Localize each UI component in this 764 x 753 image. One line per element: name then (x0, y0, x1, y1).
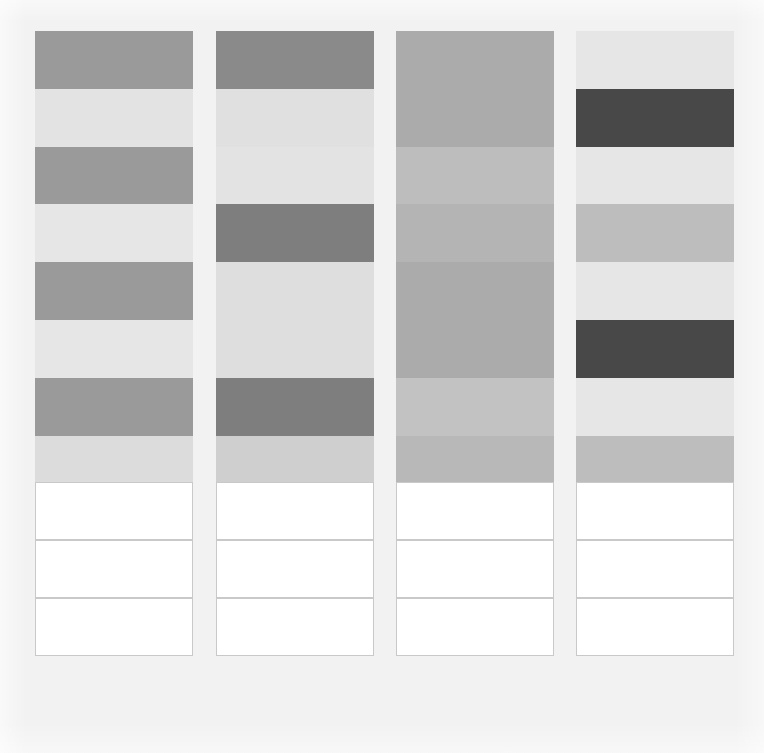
grid-cell-filled[interactable] (576, 262, 734, 320)
grid-cell-filled[interactable] (576, 378, 734, 436)
grid-cell-filled[interactable] (396, 204, 554, 262)
grid-cell-empty[interactable] (216, 482, 374, 540)
grid-cell-filled[interactable] (576, 147, 734, 204)
grid-cell-filled[interactable] (35, 89, 193, 147)
grid-cell-filled[interactable] (396, 262, 554, 320)
grid-cell-filled[interactable] (35, 204, 193, 262)
grid-cell-filled[interactable] (216, 320, 374, 378)
grid-cell-filled[interactable] (396, 378, 554, 436)
grid-cell-filled[interactable] (576, 436, 734, 482)
grid-cell-filled[interactable] (216, 204, 374, 262)
grid-cell-filled[interactable] (216, 436, 374, 482)
grid-cell-filled[interactable] (576, 204, 734, 262)
grid-cell-filled[interactable] (35, 436, 193, 482)
grid-cell-filled[interactable] (35, 378, 193, 436)
grid-cell-empty[interactable] (396, 540, 554, 598)
grid-cell-empty[interactable] (396, 482, 554, 540)
grid-cell-empty[interactable] (35, 482, 193, 540)
grid-cell-filled[interactable] (35, 320, 193, 378)
grid-cell-filled[interactable] (35, 147, 193, 204)
grid-cell-filled[interactable] (216, 147, 374, 204)
grid-cell-empty[interactable] (35, 540, 193, 598)
grid-cell-filled[interactable] (396, 320, 554, 378)
grid-cell-filled[interactable] (576, 89, 734, 147)
grid-cell-filled[interactable] (216, 31, 374, 89)
grid-cell-filled[interactable] (35, 262, 193, 320)
grid-cell-empty[interactable] (216, 598, 374, 656)
grid-cell-empty[interactable] (35, 598, 193, 656)
grid-cell-empty[interactable] (576, 482, 734, 540)
grid-cell-filled[interactable] (216, 262, 374, 320)
grid-cell-filled[interactable] (396, 147, 554, 204)
grid-cell-empty[interactable] (576, 540, 734, 598)
grid-cell-filled[interactable] (396, 89, 554, 147)
grid-cell-filled[interactable] (35, 31, 193, 89)
grid-cell-filled[interactable] (216, 89, 374, 147)
grid-cell-empty[interactable] (396, 598, 554, 656)
grid-canvas (0, 0, 764, 753)
grid-cell-filled[interactable] (396, 436, 554, 482)
grid-cell-filled[interactable] (216, 378, 374, 436)
grid-cell-filled[interactable] (396, 31, 554, 89)
grid-cell-empty[interactable] (576, 598, 734, 656)
grid-cell-filled[interactable] (576, 320, 734, 378)
grid-cell-filled[interactable] (576, 31, 734, 89)
grid-cell-empty[interactable] (216, 540, 374, 598)
